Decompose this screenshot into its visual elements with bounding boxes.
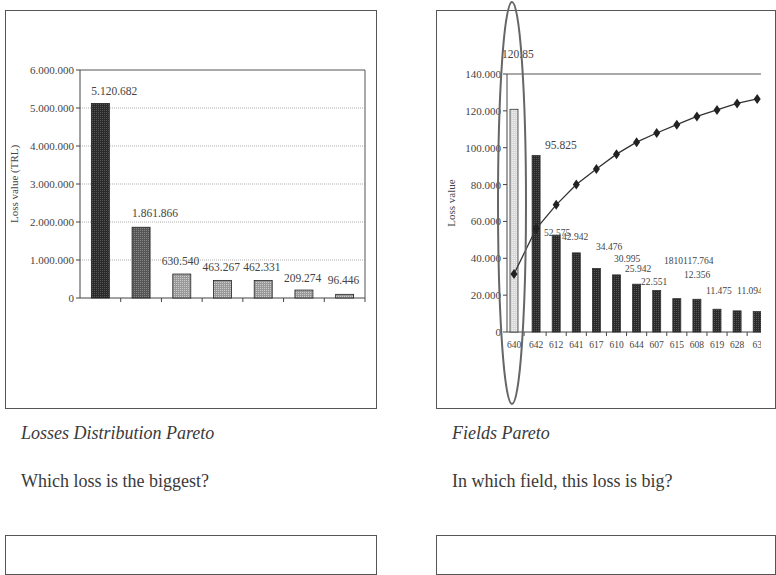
fields-question: In which field, this loss is big? [452, 471, 672, 492]
svg-text:462.331: 462.331 [243, 261, 281, 273]
svg-text:642: 642 [529, 340, 544, 350]
losses-question: Which loss is the biggest? [21, 471, 209, 492]
svg-text:Loss value (TRL): Loss value (TRL) [8, 145, 21, 224]
svg-text:25.942: 25.942 [625, 264, 651, 274]
svg-text:617: 617 [589, 340, 604, 350]
svg-text:120.000: 120.000 [465, 105, 501, 117]
svg-text:100.000: 100.000 [465, 142, 501, 154]
svg-text:644: 644 [629, 340, 644, 350]
svg-text:608: 608 [690, 340, 705, 350]
fields-chart-caption: Fields Pareto [452, 423, 550, 444]
svg-text:30.995: 30.995 [614, 254, 640, 264]
svg-text:140.000: 140.000 [465, 68, 501, 80]
svg-text:640: 640 [507, 340, 522, 350]
svg-text:11.094: 11.094 [737, 286, 761, 296]
svg-text:3.000.000: 3.000.000 [30, 178, 75, 190]
fields-pareto-chart: 020.00040.00060.00080.000100.000120.0001… [430, 0, 761, 410]
svg-text:96.446: 96.446 [328, 274, 360, 286]
svg-text:22.551: 22.551 [641, 277, 667, 287]
svg-text:0: 0 [69, 292, 75, 304]
svg-text:120.85: 120.85 [502, 48, 534, 60]
svg-text:463.267: 463.267 [203, 261, 241, 273]
svg-text:615: 615 [670, 340, 685, 350]
svg-text:6.000.000: 6.000.000 [30, 64, 75, 76]
lower-left-frame [5, 535, 377, 575]
svg-text:42.942: 42.942 [562, 232, 588, 242]
svg-text:11.475: 11.475 [706, 286, 732, 296]
svg-text:80.000: 80.000 [471, 179, 502, 191]
svg-text:628: 628 [730, 340, 745, 350]
svg-text:95.825: 95.825 [545, 139, 577, 151]
svg-text:1.861.866: 1.861.866 [132, 207, 178, 219]
losses-chart-caption: Losses Distribution Pareto [21, 423, 214, 444]
svg-text:607: 607 [650, 340, 665, 350]
svg-text:2.000.000: 2.000.000 [30, 216, 75, 228]
svg-text:20.000: 20.000 [471, 289, 502, 301]
svg-text:641: 641 [569, 340, 584, 350]
svg-text:630.540: 630.540 [162, 255, 200, 267]
svg-text:60.000: 60.000 [471, 215, 502, 227]
svg-text:5.120.682: 5.120.682 [91, 85, 137, 97]
svg-text:1810117.764: 1810117.764 [664, 256, 714, 266]
svg-text:40.000: 40.000 [471, 252, 502, 264]
svg-text:1.000.000: 1.000.000 [30, 254, 75, 266]
svg-text:5.000.000: 5.000.000 [30, 102, 75, 114]
svg-text:612: 612 [549, 340, 564, 350]
svg-text:4.000.000: 4.000.000 [30, 140, 75, 152]
svg-text:610: 610 [609, 340, 624, 350]
svg-text:34.476: 34.476 [596, 242, 622, 252]
svg-text:619: 619 [710, 340, 725, 350]
svg-text:209.274: 209.274 [284, 272, 322, 284]
lower-right-frame [436, 535, 776, 575]
svg-text:63: 63 [752, 340, 761, 350]
svg-text:Loss value: Loss value [445, 179, 457, 226]
svg-text:12.356: 12.356 [684, 270, 710, 280]
losses-distribution-chart: 01.000.0002.000.0003.000.0004.000.0005.0… [0, 0, 380, 410]
